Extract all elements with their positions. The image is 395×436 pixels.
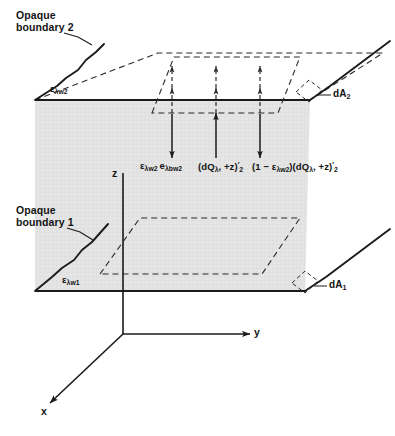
opaque-boundary-2-leader [64, 33, 92, 45]
emissivity-w1-label: ελw1 [62, 275, 80, 287]
incident-lead: (dQ [198, 161, 215, 172]
reflected-eps-sub: λw2 [276, 166, 289, 173]
reflected-lead: (dQ [293, 161, 310, 172]
radiation-exchange-figure: Opaque boundary 2 ελw2 dA2 Opaque bounda… [0, 0, 395, 436]
reflected-prefix-open: (1 − [252, 161, 272, 172]
emissivity-w2-subscript: λw2 [55, 88, 68, 95]
dA1-subscript: 1 [343, 283, 347, 292]
area-element-1-label: dA1 [329, 279, 347, 292]
emitted-e-sub: λbw2 [165, 165, 182, 172]
reflected-flux-label: (1 − ελw2)(dQλ, +z)′2 [252, 161, 338, 173]
y-axis-label: y [254, 327, 260, 339]
dA1-symbol: dA [329, 279, 343, 290]
reflected-sub-2: 2 [334, 166, 338, 173]
opaque-boundary-2-label: Opaque boundary 2 [16, 10, 74, 34]
emitted-eps-sub: λw2 [145, 165, 158, 172]
area-element-2-label: dA2 [333, 88, 351, 101]
reflected-mid: , +z [313, 161, 329, 172]
x-axis-label: x [41, 406, 47, 418]
dA2-subscript: 2 [347, 92, 351, 101]
opaque-boundary-1-label: Opaque boundary 1 [16, 205, 74, 229]
emissivity-w2-label: ελw2 [50, 84, 68, 96]
incident-flux-label: (dQλ, +z)′2 [198, 161, 243, 173]
emitted-flux-label: ελw2 eλbw2 [140, 161, 182, 173]
emissivity-w1-subscript: λw1 [67, 279, 80, 286]
z-axis-label: z [112, 168, 117, 180]
dA2-symbol: dA [333, 88, 347, 99]
incident-mid: , +z [218, 161, 234, 172]
incident-sub-2: 2 [239, 166, 243, 173]
x-axis [50, 334, 123, 403]
